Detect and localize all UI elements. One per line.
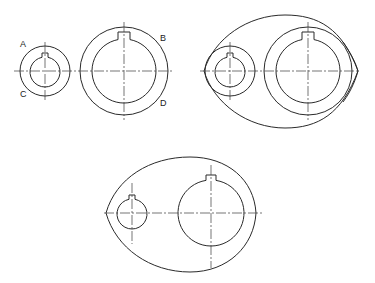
figure-3 — [104, 157, 262, 272]
label-d: D — [160, 99, 167, 108]
finished-outline — [106, 157, 256, 272]
figure-1 — [14, 22, 174, 120]
label-b: B — [160, 34, 166, 43]
label-a: A — [20, 40, 26, 49]
figure-2 — [200, 15, 360, 128]
upper-envelope-arc — [204, 15, 358, 71]
label-c: C — [20, 90, 27, 99]
lower-envelope-arc — [204, 71, 358, 128]
technical-drawing — [0, 0, 375, 283]
right-tangent-arc — [343, 42, 358, 102]
